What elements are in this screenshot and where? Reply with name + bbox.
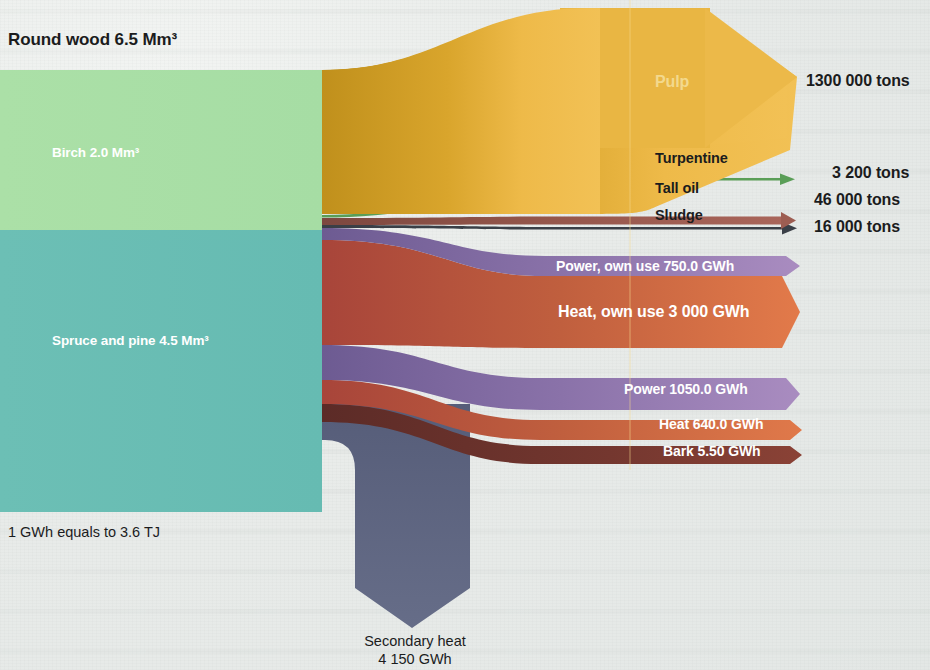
footnote: 1 GWh equals to 3.6 TJ bbox=[8, 524, 160, 540]
flow-pulp-curve-fill bbox=[322, 8, 600, 214]
node-label-heat-own-use: Heat, own use 3 000 GWh bbox=[558, 303, 750, 321]
sankey-figure: Round wood 6.5 Mm³ Birch 2.0 Mm³ Spruce … bbox=[0, 0, 930, 670]
secondary-heat-line-2: 4 150 GWh bbox=[330, 650, 500, 668]
node-label-pulp: Pulp bbox=[655, 73, 689, 91]
node-label-birch: Birch 2.0 Mm³ bbox=[52, 145, 139, 160]
node-label-sludge: Sludge bbox=[655, 207, 703, 223]
node-spruce-and-pine bbox=[0, 230, 322, 512]
value-tall-oil: 46 000 tons bbox=[814, 191, 900, 209]
node-label-power-own-use: Power, own use 750.0 GWh bbox=[556, 258, 734, 274]
secondary-heat-line-1: Secondary heat bbox=[330, 632, 500, 650]
node-label-secondary-heat: Secondary heat 4 150 GWh bbox=[330, 632, 500, 668]
node-birch bbox=[0, 70, 322, 230]
value-sludge: 16 000 tons bbox=[814, 218, 900, 236]
flow-tall-oil bbox=[322, 217, 783, 226]
node-label-heat: Heat 640.0 GWh bbox=[659, 416, 763, 432]
page-title: Round wood 6.5 Mm³ bbox=[8, 30, 177, 50]
value-pulp: 1300 000 tons bbox=[806, 72, 910, 90]
flow-turpentine-arrowhead bbox=[780, 174, 795, 186]
value-turpentine: 3 200 tons bbox=[832, 164, 909, 182]
node-label-turpentine: Turpentine bbox=[655, 150, 728, 166]
node-label-power: Power 1050.0 GWh bbox=[624, 381, 748, 397]
node-label-bark: Bark 5.50 GWh bbox=[663, 443, 761, 459]
flow-sludge bbox=[322, 225, 786, 230]
node-label-spruce-and-pine: Spruce and pine 4.5 Mm³ bbox=[52, 333, 209, 348]
node-label-tall-oil: Tall oil bbox=[655, 180, 699, 196]
